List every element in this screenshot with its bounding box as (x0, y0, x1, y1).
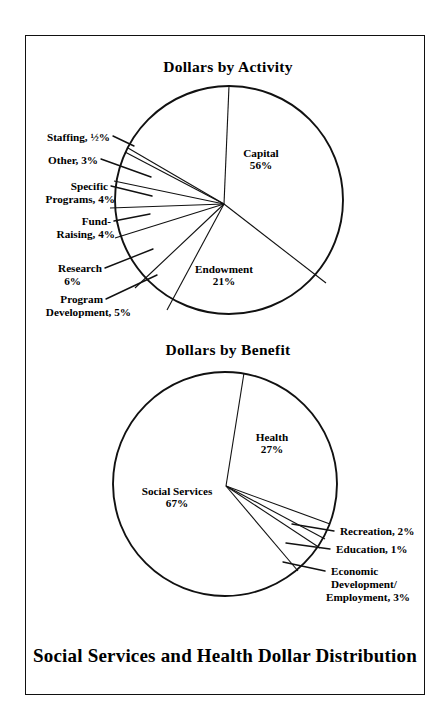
chart1-label-staffing: Staffing, ½% (47, 131, 110, 143)
chart1-label-capital-name: Capital (243, 147, 278, 159)
chart2-label-economic-development-line2: Development/ (331, 578, 398, 590)
chart1-label-other: Other, 3% (48, 154, 98, 166)
chart2-label-economic-development-line1: Economic (331, 565, 378, 577)
chart1-label-capital-pct: 56% (250, 159, 272, 171)
chart1-label-endowment-name: Endowment (195, 263, 253, 275)
chart2-label-social-services-pct: 67% (166, 497, 188, 509)
chart2-label-health-pct: 27% (261, 443, 283, 455)
chart2-label-recreation: Recreation, 2% (340, 525, 414, 537)
chart2-title: Dollars by Benefit (165, 341, 291, 358)
chart2-label-education: Education, 1% (336, 543, 408, 555)
chart2-slice-lines (226, 373, 330, 571)
figure-caption: Social Services and Health Dollar Distri… (25, 645, 425, 667)
chart2-label-economic-development-line3: Employment, 3% (326, 591, 410, 603)
chart1-label-fund-raising-line1: Fund- (82, 215, 111, 227)
chart1-label-endowment-pct: 21% (213, 275, 235, 287)
chart1-label-research-line1: Research (58, 262, 103, 274)
chart1-label-program-development-line1: Program (60, 293, 103, 305)
chart1-label-research-line2: 6% (64, 275, 81, 287)
chart2-pie-outline (113, 372, 337, 596)
pie-charts-figure: Dollars by Activity (0, 0, 448, 724)
figure-page: Dollars by Activity (0, 0, 448, 724)
chart1-label-specific-programs-line2: Programs, 4% (46, 193, 115, 205)
chart1-label-fund-raising-line2: Raising, 4% (57, 228, 115, 240)
chart2-label-health-name: Health (256, 431, 289, 443)
chart2-label-social-services-name: Social Services (142, 485, 213, 497)
chart1-label-program-development-line2: Development, 5% (46, 306, 131, 318)
chart1-title: Dollars by Activity (163, 58, 293, 75)
chart1-label-specific-programs-line1: Specific (71, 180, 108, 192)
